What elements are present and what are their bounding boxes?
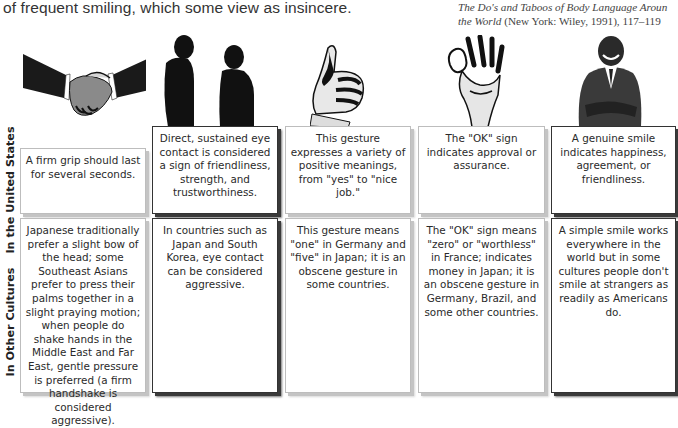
thumbs-up-icon (310, 42, 390, 128)
citation-title-cont: the World (458, 15, 501, 27)
other-smile-card: A simple smile works everywhere in the w… (551, 218, 676, 393)
us-ok-sign-card: The "OK" sign indicates approval or assu… (418, 126, 545, 214)
other-ok-sign-card: The "OK" sign means "zero" or "worthless… (418, 218, 545, 393)
citation-publisher: (New York: Wiley, 1991), 117–119 (501, 15, 660, 27)
citation-title: The Do's and Taboos of Body Language Aro… (458, 1, 667, 13)
citation: The Do's and Taboos of Body Language Aro… (458, 1, 678, 28)
us-thumbs-up-card: This gesture expresses a variety of posi… (285, 126, 411, 214)
intro-text: of frequent smiling, which some view as … (3, 0, 352, 17)
other-handshake-card: Japanese traditionally prefer a slight b… (20, 218, 146, 393)
other-thumbs-up-card: This gesture means "one" in Germany and … (285, 218, 411, 393)
row-label-other-cultures: In Other Cultures (2, 255, 18, 389)
smiling-man-icon (575, 35, 645, 127)
ok-sign-hand-icon (440, 35, 520, 127)
us-smile-card: A genuine smile indicates happiness, agr… (551, 126, 676, 214)
us-eye-contact-card: Direct, sustained eye contact is conside… (152, 126, 278, 214)
us-handshake-card: A firm grip should last for several seco… (20, 148, 146, 214)
row-label-united-states: In the United States (2, 148, 18, 232)
handshake-icon (20, 48, 146, 128)
other-eye-contact-card: In countries such as Japan and South Kor… (152, 218, 278, 393)
two-people-facing-icon (160, 35, 278, 127)
